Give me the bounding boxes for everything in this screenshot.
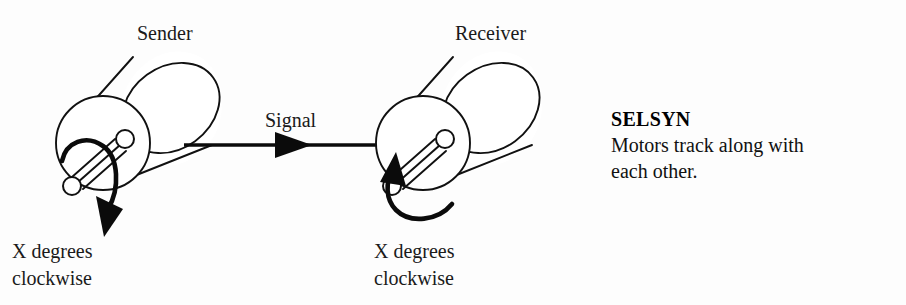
- receiver-label: Receiver: [455, 22, 526, 44]
- receiver-shaft-knob-upper: [436, 130, 454, 148]
- sender-caption-line1: X degrees: [12, 240, 93, 263]
- sender-shaft-knob-upper: [116, 130, 134, 148]
- signal-connector: [184, 132, 397, 158]
- sender-label: Sender: [137, 22, 193, 44]
- selsyn-illustration: Sender Receiver Signal X degrees clockwi…: [0, 0, 906, 305]
- selsyn-caption-title: SELSYN: [611, 108, 691, 130]
- receiver-caption-line2: clockwise: [374, 267, 454, 289]
- sender-shaft-knob-lower: [63, 177, 81, 195]
- receiver-motor: [376, 44, 557, 219]
- sender-caption-line2: clockwise: [12, 267, 92, 289]
- sender-motor: [56, 44, 237, 237]
- selsyn-diagram: Sender Receiver Signal X degrees clockwi…: [0, 0, 906, 305]
- signal-label: Signal: [265, 109, 317, 132]
- signal-arrowhead-icon: [275, 132, 312, 158]
- sender-front-face: [56, 96, 150, 190]
- selsyn-caption-line1: Motors track along with: [611, 134, 804, 157]
- receiver-caption-line1: X degrees: [374, 240, 455, 263]
- selsyn-caption-line2: each other.: [611, 160, 698, 182]
